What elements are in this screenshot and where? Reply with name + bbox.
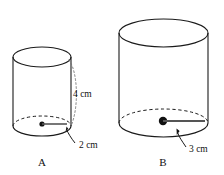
cylinder-b-figure-label: B (159, 156, 166, 168)
cylinder-a-height-label: 4 cm (73, 89, 92, 99)
cylinder-a-radius-label: 2 cm (79, 140, 98, 150)
cylinder-b-radius-label: 3 cm (189, 144, 208, 154)
cylinder-a-figure-label: A (38, 156, 46, 168)
diagram-canvas: 4 cm 2 cm A 3 cm B (0, 0, 224, 175)
cylinder-comparison-figure: 4 cm 2 cm A 3 cm B (0, 0, 224, 175)
